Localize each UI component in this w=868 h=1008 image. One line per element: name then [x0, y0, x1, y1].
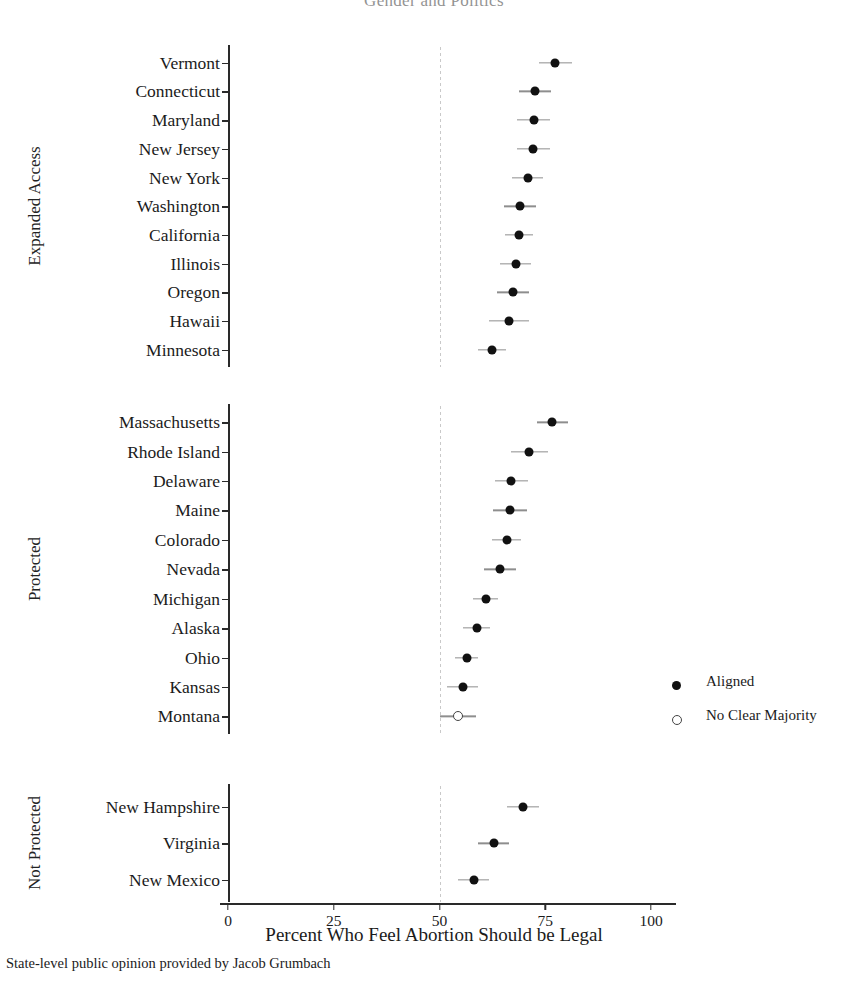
- data-point: [505, 317, 514, 326]
- data-point: [453, 711, 463, 721]
- category-label: Ohio: [185, 647, 220, 668]
- panel-label: Protected: [25, 537, 45, 601]
- y-axis-tick: [222, 206, 228, 207]
- y-axis-tick: [222, 178, 228, 179]
- legend-label: No Clear Majority: [706, 707, 817, 724]
- category-label: Connecticut: [135, 81, 220, 102]
- data-point: [458, 682, 467, 691]
- y-axis-tick: [222, 569, 228, 570]
- category-label: Hawaii: [169, 311, 220, 332]
- category-label: Kansas: [169, 676, 220, 697]
- data-point: [525, 447, 534, 456]
- category-label: Virginia: [163, 833, 220, 854]
- data-point: [529, 144, 538, 153]
- data-point: [515, 202, 524, 211]
- category-label: Massachusetts: [119, 412, 220, 433]
- category-label: Rhode Island: [127, 441, 220, 462]
- data-point: [514, 230, 523, 239]
- y-axis-tick: [222, 687, 228, 688]
- filled-circle-icon: [672, 681, 681, 690]
- x-axis-tick: [227, 903, 228, 910]
- chart-title: Gender and Politics: [0, 0, 868, 13]
- y-axis-tick: [222, 658, 228, 659]
- data-point: [511, 259, 520, 268]
- y-axis-tick: [222, 628, 228, 629]
- y-axis-tick: [222, 149, 228, 150]
- y-axis-tick: [222, 807, 228, 808]
- panel-label: Not Protected: [25, 796, 45, 890]
- data-point: [548, 418, 557, 427]
- y-axis-tick: [222, 63, 228, 64]
- category-label: Minnesota: [146, 339, 220, 360]
- chart-caption: State-level public opinion provided by J…: [6, 955, 331, 972]
- y-axis-tick: [222, 452, 228, 453]
- data-point: [472, 624, 481, 633]
- y-axis-line: [228, 404, 230, 734]
- x-axis-title: Percent Who Feel Abortion Should be Lega…: [0, 924, 868, 946]
- x-axis-tick: [439, 903, 440, 910]
- y-axis-line: [228, 45, 230, 367]
- category-label: New Mexico: [129, 870, 220, 891]
- y-axis-tick: [222, 422, 228, 423]
- y-axis-tick: [222, 880, 228, 881]
- y-axis-tick: [222, 716, 228, 717]
- category-label: Colorado: [155, 529, 220, 550]
- panel-strip: Not Protected: [22, 784, 48, 902]
- data-point: [469, 876, 478, 885]
- panel-not-protected: Not ProtectedNew HampshireVirginiaNew Me…: [0, 784, 868, 902]
- panel-strip: Expanded Access: [22, 45, 48, 367]
- data-point: [496, 565, 505, 574]
- data-point: [502, 535, 511, 544]
- category-label: New Hampshire: [106, 796, 220, 817]
- category-label: Illinois: [170, 253, 220, 274]
- data-point: [482, 594, 491, 603]
- x-axis: 0255075100: [228, 903, 668, 904]
- data-point: [462, 653, 471, 662]
- data-point: [488, 345, 497, 354]
- legend-label: Aligned: [706, 673, 754, 690]
- open-circle-icon: [672, 715, 682, 725]
- plot-area: MassachusettsRhode IslandDelawareMaineCo…: [228, 404, 668, 734]
- y-axis-tick: [222, 91, 228, 92]
- y-axis-tick: [222, 264, 228, 265]
- category-label: Alaska: [171, 618, 220, 639]
- category-label: Delaware: [153, 471, 220, 492]
- data-point: [507, 477, 516, 486]
- y-axis-tick: [222, 540, 228, 541]
- data-point: [505, 506, 514, 515]
- data-point: [551, 58, 560, 67]
- y-axis-tick: [222, 292, 228, 293]
- category-label: Michigan: [153, 588, 220, 609]
- category-label: Vermont: [160, 52, 220, 73]
- x-axis-tick: [545, 903, 546, 910]
- y-axis-tick: [222, 120, 228, 121]
- x-axis-line: [220, 903, 676, 905]
- y-axis-tick: [222, 350, 228, 351]
- category-label: Nevada: [167, 559, 220, 580]
- panel-strip: Protected: [22, 404, 48, 734]
- y-axis-tick: [222, 510, 228, 511]
- category-label: New Jersey: [139, 138, 220, 159]
- category-label: Oregon: [168, 282, 220, 303]
- category-label: Maryland: [152, 110, 220, 131]
- y-axis-tick: [222, 843, 228, 844]
- category-label: Maine: [175, 500, 220, 521]
- x-axis-tick: [650, 903, 651, 910]
- panel-label: Expanded Access: [25, 146, 45, 265]
- data-point: [489, 839, 498, 848]
- reference-line-50: [440, 786, 441, 902]
- category-label: California: [149, 224, 220, 245]
- category-label: Montana: [158, 706, 220, 727]
- data-point: [523, 173, 532, 182]
- category-label: Washington: [137, 196, 220, 217]
- reference-line-50: [440, 406, 441, 734]
- y-axis-tick: [222, 481, 228, 482]
- y-axis-tick: [222, 235, 228, 236]
- data-point: [509, 288, 518, 297]
- data-point: [531, 87, 540, 96]
- y-axis-line: [228, 784, 230, 902]
- data-point: [529, 116, 538, 125]
- plot-area: New HampshireVirginiaNew Mexico: [228, 784, 668, 902]
- data-point: [519, 802, 528, 811]
- chart-root: Gender and Politics Expanded AccessVermo…: [0, 0, 868, 1008]
